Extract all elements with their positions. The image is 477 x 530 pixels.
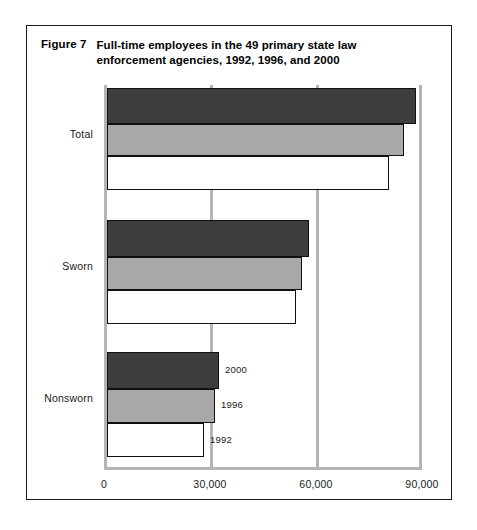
- bar-nonsworn-2000: [107, 352, 219, 389]
- figure-title-text: Full-time employees in the 49 primary st…: [97, 38, 397, 68]
- bar-sworn-1996: [107, 257, 302, 290]
- x-axis-tick-labels: 0 30,000 60,000 90,000: [104, 478, 422, 498]
- chart-plot-area: Total Sworn Nonsworn 2000 1996 1992: [104, 85, 422, 470]
- category-label-nonsworn: Nonsworn: [44, 392, 93, 404]
- x-tick-60000: 60,000: [299, 478, 332, 490]
- x-tick-90000: 90,000: [405, 478, 438, 490]
- x-tick-30000: 30,000: [193, 478, 226, 490]
- bar-nonsworn-1996: [107, 389, 215, 423]
- bar-sworn-1992: [107, 290, 296, 324]
- bar-total-2000: [107, 88, 416, 124]
- category-label-total: Total: [70, 128, 93, 140]
- bar-sworn-2000: [107, 220, 309, 257]
- bar-nonsworn-1992: [107, 423, 204, 457]
- series-label-2000: 2000: [225, 364, 247, 375]
- x-tick-0: 0: [101, 478, 107, 490]
- category-label-sworn: Sworn: [62, 260, 93, 272]
- series-label-1992: 1992: [210, 434, 232, 445]
- figure-number-label: Figure 7: [41, 38, 87, 50]
- bar-total-1996: [107, 124, 404, 156]
- figure-title-block: Figure 7 Full-time employees in the 49 p…: [41, 38, 441, 68]
- figure-container: Figure 7 Full-time employees in the 49 p…: [26, 25, 452, 500]
- series-label-1996: 1996: [221, 399, 243, 410]
- bar-total-1992: [107, 156, 389, 190]
